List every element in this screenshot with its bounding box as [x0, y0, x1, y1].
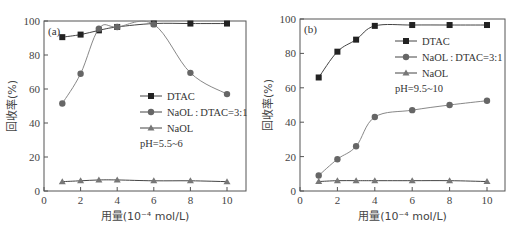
legend: DTACNaOL : DTAC=3:1NaOL [395, 36, 502, 79]
data-point [353, 37, 359, 43]
y-tick-label: 60 [29, 83, 41, 95]
legend-label: NaOL : DTAC=3:1 [422, 52, 502, 63]
x-tick-label: 0 [41, 194, 47, 206]
legend-label: DTAC [167, 91, 195, 102]
x-tick-label: 2 [78, 194, 84, 206]
series-dtac [59, 21, 230, 41]
data-point [96, 25, 102, 31]
legend: DTACNaOL : DTAC=3:1NaOL [140, 91, 247, 134]
legend-marker [403, 54, 409, 60]
y-tick-label: 0 [35, 185, 41, 197]
y-tick-label: 100 [24, 15, 41, 27]
data-point [316, 172, 322, 178]
series-naol [59, 176, 231, 184]
chart-panel-a: 0204060801000246810用量(10⁻⁴ mol/L)回收率(%)(… [5, 15, 247, 223]
legend-marker [148, 93, 154, 99]
x-tick-label: 8 [447, 194, 453, 206]
series-line [319, 101, 487, 176]
data-point [447, 22, 453, 28]
x-tick-label: 8 [188, 194, 194, 206]
data-point [446, 102, 452, 108]
data-point [224, 91, 230, 97]
y-axis-label: 回收率(%) [261, 79, 275, 131]
x-tick-label: 6 [409, 194, 415, 206]
x-tick-label: 0 [297, 194, 303, 206]
data-point [59, 34, 65, 40]
data-point [77, 71, 83, 77]
data-point [409, 107, 415, 113]
x-tick-label: 4 [372, 194, 378, 206]
data-point [409, 22, 415, 28]
legend-marker [148, 109, 154, 115]
data-point [114, 24, 120, 30]
data-point [224, 21, 230, 27]
y-tick-label: 40 [29, 117, 41, 129]
data-point [334, 49, 340, 55]
data-point [316, 74, 322, 80]
y-tick-label: 20 [29, 151, 41, 163]
ph-annotation: pH=5.5~6 [140, 138, 183, 149]
legend-label: NaOL : DTAC=3:1 [167, 107, 247, 118]
x-tick-label: 10 [482, 194, 494, 206]
x-tick-label: 10 [222, 194, 234, 206]
data-point [484, 98, 490, 104]
y-tick-label: 80 [285, 47, 297, 59]
x-tick-label: 6 [151, 194, 157, 206]
series-naol-dtac-3-1 [316, 98, 491, 179]
y-tick-label: 20 [285, 151, 297, 163]
series-line [62, 180, 227, 182]
ph-annotation: pH=9.5~10 [395, 83, 443, 94]
legend-marker [403, 38, 409, 44]
legend-label: DTAC [422, 36, 450, 47]
data-point [78, 32, 84, 38]
y-tick-label: 80 [29, 49, 41, 61]
legend-label: NaOL [422, 68, 448, 79]
series-line [319, 24, 487, 77]
data-point [59, 100, 65, 106]
y-tick-label: 100 [280, 13, 297, 25]
series-naol [315, 177, 490, 184]
x-axis-label: 用量(10⁻⁴ mol/L) [358, 210, 447, 223]
panel-label: (a) [48, 25, 61, 38]
series-line [62, 23, 227, 37]
x-tick-label: 2 [335, 194, 341, 206]
y-axis-label: 回收率(%) [5, 80, 19, 132]
chart-panel-b: 0204060801000246810用量(10⁻⁴ mol/L)回收率(%)(… [261, 13, 505, 223]
data-point [334, 156, 340, 162]
data-point [187, 21, 193, 27]
data-point [372, 23, 378, 29]
y-tick-label: 40 [285, 116, 297, 128]
data-point [353, 143, 359, 149]
legend-label: NaOL [167, 123, 193, 134]
data-point [372, 114, 378, 120]
x-axis-label: 用量(10⁻⁴ mol/L) [101, 210, 190, 223]
figure: 0204060801000246810用量(10⁻⁴ mol/L)回收率(%)(… [0, 0, 517, 235]
x-tick-label: 4 [114, 194, 120, 206]
panel-label: (b) [304, 23, 317, 36]
data-point [187, 70, 193, 76]
data-point [151, 21, 157, 27]
y-tick-label: 0 [291, 185, 297, 197]
plot-frame [44, 21, 246, 191]
y-tick-label: 60 [285, 82, 297, 94]
data-point [484, 22, 490, 28]
series-line [319, 181, 487, 182]
